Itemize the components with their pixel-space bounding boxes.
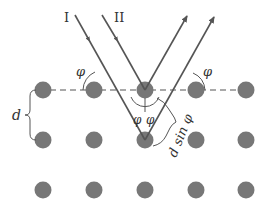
spacing-brace [25, 90, 36, 140]
ray-two-label: II [114, 10, 124, 25]
ray-one-label: I [64, 10, 69, 25]
bragg-diffraction-diagram: I II φ φ φ φ d d sin φ [0, 0, 271, 211]
atom [188, 182, 205, 199]
atom [35, 132, 52, 149]
atom [238, 132, 255, 149]
spacing-label: d [12, 107, 21, 123]
atom [137, 182, 154, 199]
atom [238, 82, 255, 99]
atom [238, 182, 255, 199]
atom [86, 132, 103, 149]
atom [86, 182, 103, 199]
ray-two-incident [117, 40, 145, 90]
angle-label-left: φ [76, 64, 86, 79]
angle-label-inner-right: φ [146, 113, 155, 127]
ray-two [102, 15, 187, 90]
ray-two-reflected [145, 16, 187, 90]
diagram-canvas: I II φ φ φ φ d d sin φ [0, 0, 271, 211]
angle-label-right: φ [203, 64, 213, 79]
ray-one-incident-upper [75, 15, 89, 40]
angle-label-inner-left: φ [133, 113, 142, 127]
atom [188, 82, 205, 99]
atom [188, 132, 205, 149]
atom [35, 82, 52, 99]
atom [35, 182, 52, 199]
atom [86, 82, 103, 99]
